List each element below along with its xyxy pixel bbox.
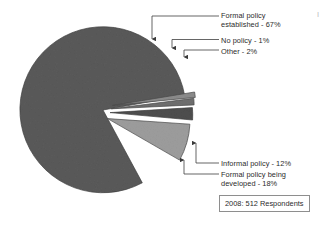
label-formal-policy-established-line1: Formal policy	[221, 11, 281, 20]
label-no-policy: No policy - 1%	[221, 36, 269, 45]
clipped-edge-text-fragment: I	[317, 10, 325, 36]
label-other: Other - 2%	[221, 47, 257, 56]
pie-chart-figure	[0, 0, 325, 227]
label-informal-policy: Informal policy - 12%	[221, 159, 291, 168]
respondents-footnote-box: 2008: 512 Respondents	[219, 195, 310, 212]
label-formal-policy-being-developed-line1: Formal policy being	[221, 170, 286, 179]
label-formal-policy-established: Formal policy established - 67%	[221, 11, 281, 29]
label-formal-policy-being-developed-line2: developed - 18%	[221, 179, 286, 188]
label-formal-policy-being-developed: Formal policy being developed - 18%	[221, 170, 286, 188]
label-formal-policy-established-line2: established - 67%	[221, 20, 281, 29]
